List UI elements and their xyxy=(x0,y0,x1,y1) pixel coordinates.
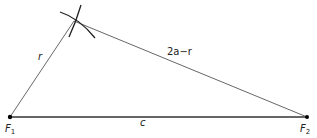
label-r: r xyxy=(38,52,42,62)
label-f2: F2 xyxy=(300,124,310,136)
label-f1: F1 xyxy=(5,124,15,136)
ellipse-construction-diagram: r 2a−r c F1 F2 xyxy=(0,0,317,138)
segment-2a-minus-r xyxy=(74,21,307,117)
label-c: c xyxy=(140,118,146,128)
segment-r xyxy=(10,21,74,117)
arc-mark-from-f1 xyxy=(69,5,81,37)
label-2a-minus-r: 2a−r xyxy=(167,47,192,57)
focus-point-f2 xyxy=(305,115,309,119)
diagram-canvas xyxy=(0,0,317,138)
label-f1-subscript: 1 xyxy=(11,128,15,136)
label-f2-subscript: 2 xyxy=(306,128,310,136)
focus-point-f1 xyxy=(8,115,12,119)
